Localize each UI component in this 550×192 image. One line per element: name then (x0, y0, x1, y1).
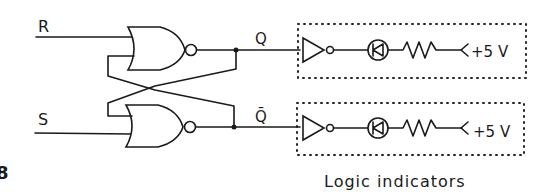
logic-indicator-lower: +5 V (297, 103, 524, 155)
supply-label: +5 V (471, 43, 509, 61)
input-r-label: R (38, 17, 49, 36)
inverter-bubble-icon (327, 47, 334, 54)
output-qbar-label: Q̄ (255, 107, 267, 126)
nor-gate-upper (128, 27, 197, 70)
figure-marker: 8 (0, 162, 9, 183)
nor-gate-lower (126, 105, 196, 147)
input-s-label: S (38, 110, 48, 129)
inverter-bubble-icon (185, 122, 196, 133)
led-icon (368, 118, 388, 138)
supply-terminal-icon (461, 44, 468, 56)
output-q-label: Q (255, 30, 267, 48)
logic-indicator-upper: +5 V (298, 24, 526, 78)
supply-terminal-icon (461, 122, 468, 134)
input-s-wire (35, 133, 132, 134)
resistor-icon (388, 42, 462, 58)
buffer-inverter-icon (303, 116, 324, 140)
supply-label: +5 V (473, 123, 511, 141)
buffer-inverter-icon (303, 38, 324, 62)
led-icon (368, 40, 388, 60)
caption-logic-indicators: Logic indicators (324, 172, 466, 191)
sr-latch-diagram: R S Q Q̄ +5 V (0, 0, 550, 192)
inverter-bubble-icon (186, 45, 197, 56)
inverter-bubble-icon (327, 125, 334, 132)
resistor-icon (388, 120, 462, 136)
